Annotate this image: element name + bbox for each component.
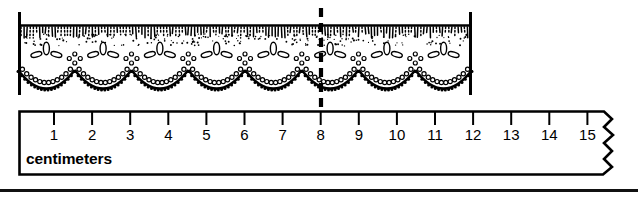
bead-ring [274, 80, 278, 84]
texture-dot [463, 40, 464, 41]
picot-bump [214, 89, 217, 92]
bead-ring [256, 75, 260, 79]
picot-bump [284, 86, 287, 89]
picot-bump [93, 87, 96, 90]
texture-dot [138, 45, 139, 46]
fringe-dash [285, 27, 286, 38]
bead-ring [204, 78, 208, 82]
bead-ring [282, 78, 286, 82]
picot-bump [107, 88, 110, 91]
texture-dot [464, 36, 466, 38]
bead-ring [230, 75, 234, 79]
picot-bump [297, 74, 300, 77]
bead-ring [317, 78, 321, 82]
lace-trim-illustration [0, 0, 638, 112]
picot-bump [461, 81, 464, 84]
texture-dot [150, 37, 152, 39]
texture-dot [254, 38, 256, 40]
ruler-number-10: 10 [384, 127, 410, 143]
picot-bump [377, 87, 380, 90]
cusp-bead [192, 57, 196, 61]
fringe-dash [306, 27, 307, 37]
bead-ring [191, 67, 195, 71]
picot-bump [274, 89, 277, 92]
cusp-bead [186, 52, 190, 56]
fringe-dash [89, 27, 90, 37]
picot-bump [424, 81, 427, 84]
picot-bump [230, 84, 233, 87]
texture-dot [147, 42, 149, 44]
texture-dot [172, 42, 174, 44]
texture-dot [186, 42, 188, 44]
bead-ring [444, 80, 448, 84]
texture-dot [239, 42, 241, 44]
texture-dot [430, 42, 431, 43]
picot-bump [444, 89, 447, 92]
texture-dot [372, 36, 374, 38]
picot-bump [100, 89, 103, 92]
picot-bump [217, 89, 220, 92]
picot-bump [177, 81, 180, 84]
texture-dot [131, 34, 132, 35]
texture-dot [58, 45, 59, 46]
bead-ring [335, 80, 339, 84]
picot-bump [180, 78, 183, 81]
picot-bump [427, 84, 430, 87]
picot-bump [384, 89, 387, 92]
picot-bump [170, 86, 173, 89]
picot-bump [47, 89, 50, 92]
texture-dot [158, 40, 159, 41]
texture-dot [25, 36, 27, 38]
ruler-number-5: 5 [193, 127, 219, 143]
texture-dot [249, 34, 251, 36]
fringe-dash [206, 27, 207, 33]
texture-dot [198, 37, 200, 39]
texture-dot [157, 33, 158, 34]
texture-dot [305, 43, 306, 44]
picot-bump [197, 81, 200, 84]
picot-bump [390, 88, 393, 91]
fringe-dash [381, 27, 382, 33]
picot-bump [200, 84, 203, 87]
fringe-dash [45, 27, 46, 33]
texture-dot [296, 41, 298, 43]
fringe-dash [464, 27, 465, 33]
floral-motif [201, 42, 233, 58]
texture-dot [264, 38, 266, 40]
ruler-number-4: 4 [155, 127, 181, 143]
picot-bump [314, 84, 317, 87]
texture-dot [170, 44, 172, 46]
cusp-bead [419, 57, 423, 61]
bead-ring [391, 80, 395, 84]
texture-dot [302, 33, 304, 35]
picot-bump [467, 74, 470, 77]
texture-dot [292, 38, 294, 40]
bead-ring [448, 80, 452, 84]
bead-ring [452, 78, 456, 82]
texture-dot [431, 40, 433, 42]
bead-ring [457, 75, 461, 79]
texture-dot [41, 44, 43, 46]
texture-dot [228, 41, 230, 43]
texture-dot [448, 40, 450, 42]
ruler-number-12: 12 [460, 127, 486, 143]
texture-dot [383, 36, 385, 38]
bead-ring [20, 67, 24, 71]
texture-dot [237, 40, 238, 41]
floral-motif [257, 42, 289, 58]
fringe-dash [170, 27, 171, 36]
ruler-number-8: 8 [308, 127, 334, 143]
worksheet-page: 123456789101112131415 centimeters [0, 0, 638, 198]
picot-bump [457, 84, 460, 87]
bead-ring [404, 72, 408, 76]
texture-dot [436, 37, 437, 38]
bead-ring [291, 72, 295, 76]
bead-ring [60, 75, 64, 79]
texture-dot [167, 34, 169, 36]
fringe-dash [281, 27, 282, 38]
texture-dot [395, 36, 397, 38]
texture-dot [205, 36, 207, 38]
texture-dot [374, 44, 376, 46]
texture-dot [228, 34, 230, 36]
texture-dot [337, 43, 339, 45]
